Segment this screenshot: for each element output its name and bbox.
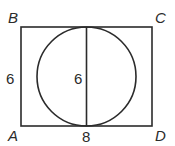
- vertex-label-c: C: [155, 9, 166, 26]
- vertex-label-b: B: [8, 9, 18, 26]
- diameter-length: 6: [74, 70, 82, 87]
- geometry-diagram: B C A D 6 6 8: [0, 0, 175, 146]
- vertex-label-d: D: [155, 127, 166, 144]
- vertex-label-a: A: [7, 127, 18, 144]
- side-ab-length: 6: [6, 70, 14, 87]
- side-ad-length: 8: [82, 128, 90, 145]
